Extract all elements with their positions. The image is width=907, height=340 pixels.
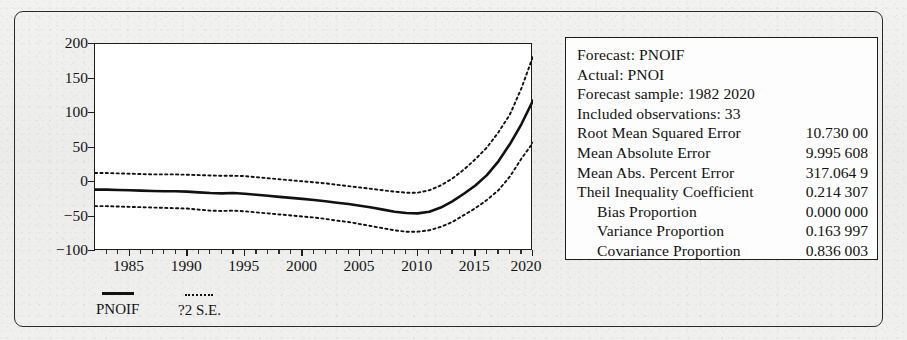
- statistic-row: Variance Proportion0.163 997: [577, 221, 868, 241]
- legend-label: PNOIF: [96, 301, 139, 318]
- x-axis-tick-label: 1995: [214, 258, 274, 274]
- x-axis-tick-mark: [359, 250, 360, 256]
- statistic-label: Variance Proportion: [577, 221, 724, 241]
- statistic-label: Theil Inequality Coefficient: [577, 182, 754, 202]
- statistic-label: Bias Proportion: [577, 202, 697, 222]
- y-axis: 200150100500−50−100: [36, 43, 88, 250]
- y-axis-tick-label: 150: [38, 70, 88, 86]
- y-axis-tick-mark: [88, 250, 95, 251]
- x-axis-minor-tick: [348, 250, 349, 254]
- legend-label: ?2 S.E.: [178, 302, 221, 319]
- plot-curves: [95, 44, 533, 251]
- x-axis-tick-label: 2000: [271, 258, 331, 274]
- statistic-row: Covariance Proportion0.836 003: [577, 241, 868, 261]
- x-axis-minor-tick: [325, 250, 326, 254]
- x-axis-minor-tick: [497, 250, 498, 254]
- x-axis-minor-tick: [255, 250, 256, 254]
- x-axis-tick-mark: [186, 250, 187, 256]
- series-line: [95, 101, 533, 214]
- x-axis-tick-label: 1985: [99, 258, 159, 274]
- statistic-row: Actual: PNOI: [577, 65, 868, 85]
- x-axis-minor-tick: [520, 250, 521, 254]
- y-axis-tick-label: −100: [38, 242, 88, 258]
- x-axis-minor-tick: [163, 250, 164, 254]
- statistic-row: Mean Absolute Error9.995 608: [577, 143, 868, 163]
- series-line: [95, 143, 533, 232]
- y-axis-tick-label: −50: [38, 208, 88, 224]
- x-axis-minor-tick: [106, 250, 107, 254]
- series-line: [95, 56, 533, 192]
- statistic-label: Root Mean Squared Error: [577, 123, 741, 143]
- plot-area: [94, 43, 532, 250]
- x-axis-minor-tick: [451, 250, 452, 254]
- statistic-row: Included observations: 33: [577, 104, 868, 124]
- x-axis-minor-tick: [428, 250, 429, 254]
- y-axis-tick-label: 50: [38, 139, 88, 155]
- x-axis-minor-tick: [209, 250, 210, 254]
- x-axis-minor-tick: [290, 250, 291, 254]
- statistic-row: Theil Inequality Coefficient0.214 307: [577, 182, 868, 202]
- x-axis-tick-mark: [417, 250, 418, 256]
- x-axis-tick-label: 2020: [496, 258, 556, 274]
- x-axis-tick-label: 2010: [387, 258, 447, 274]
- x-axis-minor-tick: [140, 250, 141, 254]
- x-axis-minor-tick: [394, 250, 395, 254]
- x-axis-tick-mark: [244, 250, 245, 256]
- x-axis-minor-tick: [440, 250, 441, 254]
- forecast-figure: 200150100500−50−100 19851990199520002005…: [0, 0, 907, 340]
- x-axis-minor-tick: [198, 250, 199, 254]
- statistic-label: Forecast sample: 1982 2020: [577, 84, 755, 104]
- x-axis-minor-tick: [117, 250, 118, 254]
- chart-legend: PNOIF?2 S.E.: [88, 288, 308, 328]
- y-axis-tick-mark: [88, 147, 95, 148]
- x-axis-minor-tick: [232, 250, 233, 254]
- statistic-label: Actual: PNOI: [577, 65, 664, 85]
- x-axis-minor-tick: [371, 250, 372, 254]
- statistic-label: Covariance Proportion: [577, 241, 741, 261]
- x-axis-tick-mark: [532, 250, 533, 256]
- x-axis-minor-tick: [313, 250, 314, 254]
- legend-item: PNOIF: [96, 288, 139, 318]
- x-axis-minor-tick: [221, 250, 222, 254]
- statistic-value: 9.995 608: [806, 143, 868, 163]
- statistic-row: Mean Abs. Percent Error317.064 9: [577, 163, 868, 183]
- legend-item: ?2 S.E.: [178, 288, 221, 319]
- forecast-statistics-box: Forecast: PNOIFActual: PNOIForecast samp…: [565, 37, 878, 260]
- y-axis-tick-mark: [88, 112, 95, 113]
- x-axis-minor-tick: [509, 250, 510, 254]
- x-axis-tick-mark: [301, 250, 302, 256]
- y-axis-tick-mark: [88, 78, 95, 79]
- y-axis-tick-label: 100: [38, 104, 88, 120]
- y-axis-tick-label: 200: [38, 35, 88, 51]
- x-axis-minor-tick: [463, 250, 464, 254]
- statistic-row: Forecast: PNOIF: [577, 45, 868, 65]
- x-axis-minor-tick: [267, 250, 268, 254]
- y-axis-tick-mark: [88, 216, 95, 217]
- legend-swatch-solid-icon: [102, 292, 134, 295]
- statistic-row: Root Mean Squared Error10.730 00: [577, 123, 868, 143]
- x-axis-minor-tick: [382, 250, 383, 254]
- x-axis-minor-tick: [278, 250, 279, 254]
- statistic-value: 10.730 00: [806, 123, 868, 143]
- x-axis-tick-label: 2005: [329, 258, 389, 274]
- statistic-label: Mean Absolute Error: [577, 143, 711, 163]
- statistic-value: 317.064 9: [806, 163, 868, 183]
- statistic-value: 0.163 997: [806, 221, 868, 241]
- x-axis-minor-tick: [336, 250, 337, 254]
- legend-swatch-dotted-icon: [185, 294, 213, 296]
- x-axis-tick-mark: [474, 250, 475, 256]
- statistic-row: Bias Proportion0.000 000: [577, 202, 868, 222]
- statistic-value: 0.214 307: [806, 182, 868, 202]
- x-axis-minor-tick: [152, 250, 153, 254]
- y-axis-tick-label: 0: [38, 173, 88, 189]
- statistic-label: Forecast: PNOIF: [577, 45, 685, 65]
- y-axis-tick-mark: [88, 181, 95, 182]
- x-axis-minor-tick: [405, 250, 406, 254]
- statistic-label: Mean Abs. Percent Error: [577, 163, 734, 183]
- x-axis: 19851990199520002005201020152020: [94, 250, 532, 284]
- statistic-label: Included observations: 33: [577, 104, 741, 124]
- statistic-row: Forecast sample: 1982 2020: [577, 84, 868, 104]
- statistic-value: 0.000 000: [806, 202, 868, 222]
- x-axis-tick-label: 1990: [156, 258, 216, 274]
- x-axis-tick-mark: [129, 250, 130, 256]
